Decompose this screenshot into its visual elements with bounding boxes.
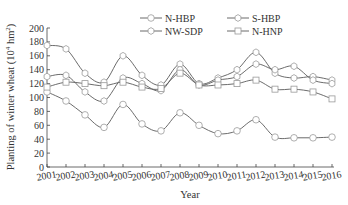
x-tick-label: 2004 — [93, 168, 115, 182]
data-point-circle-icon — [272, 134, 279, 141]
data-point-square-icon — [158, 85, 164, 91]
data-point-square-icon — [177, 70, 183, 76]
data-point-circle-icon — [139, 121, 146, 128]
y-tick-label: 140 — [29, 64, 44, 75]
legend-item-nw-sdp: NW-SDP — [140, 26, 203, 37]
x-tick-label: 2012 — [245, 168, 267, 182]
y-tick-label: 160 — [29, 50, 44, 61]
legend: N-HBPS-HBPNW-SDPN-HNP — [140, 13, 283, 37]
data-point-hexagon-icon — [63, 46, 69, 53]
x-tick-label: 2013 — [264, 168, 286, 182]
line-chart: N-HBPS-HBPNW-SDPN-HNP 020406080100120140… — [0, 0, 348, 205]
x-tick-label: 2016 — [321, 168, 343, 182]
data-point-hexagon-icon — [253, 49, 259, 56]
data-point-square-icon — [329, 96, 335, 102]
data-point-hexagon-icon — [82, 70, 88, 77]
y-tick-label: 80 — [34, 106, 44, 117]
legend-label: S-HBP — [252, 13, 281, 24]
data-point-square-icon — [234, 81, 240, 87]
x-tick-label: 2003 — [74, 168, 96, 182]
data-point-hexagon-icon — [120, 52, 126, 59]
data-point-circle-icon — [329, 134, 336, 141]
data-point-square-icon — [139, 84, 145, 90]
data-point-circle-icon — [234, 128, 241, 135]
data-point-circle-icon — [196, 122, 203, 129]
x-tick-label: 2009 — [188, 168, 210, 182]
legend-circle-icon — [148, 15, 155, 22]
data-point-square-icon — [101, 83, 107, 89]
x-tick-label: 2007 — [150, 168, 172, 182]
legend-square-icon — [235, 28, 241, 34]
data-point-square-icon — [253, 77, 259, 83]
x-axis: 2001200220032004200520062007200820092010… — [36, 164, 343, 183]
data-point-hexagon-icon — [101, 98, 107, 105]
y-tick-label: 40 — [34, 134, 44, 145]
y-axis-title: Planting of winter wheat (104 hm2) — [4, 23, 17, 170]
x-tick-label: 2006 — [131, 168, 153, 182]
data-point-circle-icon — [215, 130, 222, 137]
y-tick-label: 180 — [29, 36, 44, 47]
data-point-circle-icon — [63, 98, 70, 105]
data-point-square-icon — [63, 79, 69, 85]
data-point-square-icon — [120, 79, 126, 85]
x-tick-label: 2001 — [36, 168, 58, 182]
data-point-hexagon-icon — [63, 72, 69, 79]
x-tick-label: 2014 — [283, 168, 305, 182]
data-point-square-icon — [215, 82, 221, 88]
data-point-circle-icon — [310, 135, 317, 142]
legend-label: N-HNP — [252, 26, 283, 37]
legend-hexagon-icon — [148, 28, 154, 35]
y-tick-label: 100 — [29, 92, 44, 103]
data-point-circle-icon — [120, 101, 127, 108]
y-tick-label: 120 — [29, 78, 44, 89]
data-point-hexagon-icon — [139, 72, 145, 79]
series-line — [47, 64, 332, 101]
series-group — [44, 42, 336, 141]
y-tick-label: 20 — [34, 148, 44, 159]
data-point-hexagon-icon — [291, 63, 297, 70]
series-n-hbp — [44, 89, 336, 141]
data-point-circle-icon — [253, 116, 260, 123]
data-point-circle-icon — [158, 128, 165, 135]
legend-item-s-hbp: S-HBP — [227, 13, 281, 24]
legend-item-n-hnp: N-HNP — [227, 26, 283, 37]
y-tick-label: 60 — [34, 120, 44, 131]
legend-item-n-hbp: N-HBP — [140, 13, 195, 24]
x-tick-label: 2008 — [169, 168, 191, 182]
data-point-hexagon-icon — [82, 89, 88, 96]
data-point-circle-icon — [177, 109, 184, 116]
data-point-hexagon-icon — [234, 73, 240, 80]
series-line — [47, 92, 332, 139]
data-point-square-icon — [272, 86, 278, 92]
data-point-circle-icon — [82, 112, 89, 119]
data-point-circle-icon — [101, 124, 108, 131]
legend-label: NW-SDP — [165, 26, 203, 37]
data-point-square-icon — [310, 89, 316, 95]
data-point-hexagon-icon — [44, 73, 50, 80]
legend-hexagon-icon — [235, 15, 241, 22]
x-tick-label: 2015 — [302, 168, 324, 182]
series-line — [47, 45, 332, 85]
x-tick-label: 2010 — [207, 168, 229, 182]
legend-label: N-HBP — [165, 13, 195, 24]
x-tick-label: 2011 — [226, 168, 247, 182]
x-axis-title: Year — [180, 189, 200, 200]
data-point-hexagon-icon — [234, 66, 240, 73]
x-tick-label: 2005 — [112, 168, 134, 182]
data-point-circle-icon — [291, 135, 298, 142]
data-point-square-icon — [82, 81, 88, 87]
data-point-hexagon-icon — [310, 77, 316, 84]
data-point-hexagon-icon — [253, 61, 259, 68]
y-tick-label: 200 — [29, 23, 44, 34]
data-point-hexagon-icon — [44, 42, 50, 49]
data-point-hexagon-icon — [329, 80, 335, 87]
data-point-square-icon — [44, 84, 50, 90]
data-point-hexagon-icon — [272, 66, 278, 73]
data-point-square-icon — [196, 82, 202, 88]
data-point-square-icon — [291, 86, 297, 92]
data-point-hexagon-icon — [291, 75, 297, 82]
x-tick-label: 2002 — [55, 168, 77, 182]
